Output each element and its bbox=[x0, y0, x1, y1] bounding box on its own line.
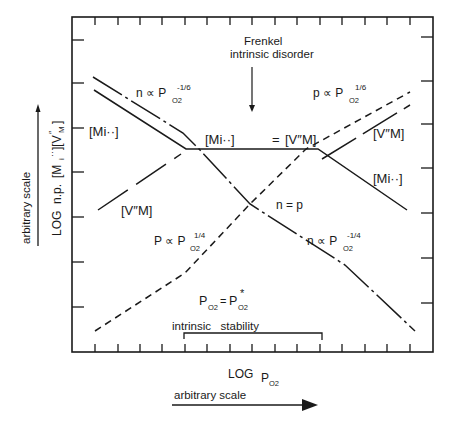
svg-text:1/6: 1/6 bbox=[355, 83, 367, 92]
svg-text:][V: ][V bbox=[50, 135, 64, 150]
svg-text:*: * bbox=[240, 287, 245, 299]
frenkel-arrow-head-icon bbox=[249, 105, 255, 112]
label-vm-left: [V″M] bbox=[121, 203, 152, 218]
x-axis-scale-label: arbitrary scale bbox=[174, 389, 246, 401]
svg-text:n ∝ P: n ∝ P bbox=[307, 234, 337, 248]
y-axis-label: LOG n.p. [M i ·· ][V ″ M ] bbox=[47, 121, 66, 236]
label-vm-right: [V″M] bbox=[373, 126, 404, 141]
x-axis-arrow-head-icon bbox=[302, 399, 318, 411]
x-axis-label: LOG P O2 bbox=[228, 367, 279, 388]
svg-text:[M: [M bbox=[50, 165, 64, 178]
svg-text:[Mi··]: [Mi··] bbox=[205, 132, 235, 147]
y-axis-scale-label: arbitrary scale bbox=[20, 172, 32, 244]
svg-text:P: P bbox=[261, 371, 269, 385]
y-axis-arrow-head-icon bbox=[36, 104, 41, 112]
svg-text:O2: O2 bbox=[269, 379, 279, 388]
svg-text:i: i bbox=[57, 158, 66, 160]
svg-text:-1/6: -1/6 bbox=[177, 83, 191, 92]
label-po2-star: P O2 = P O2 * bbox=[199, 287, 248, 312]
svg-text:[V″M]: [V″M] bbox=[285, 132, 316, 147]
top-ticks bbox=[95, 17, 410, 25]
stability-bracket bbox=[184, 333, 322, 340]
label-n-eq-p: n = p bbox=[276, 198, 303, 212]
svg-text:M: M bbox=[57, 126, 66, 133]
vacancy-left-line bbox=[98, 154, 181, 210]
svg-text:O2: O2 bbox=[343, 244, 353, 253]
svg-text:LOG: LOG bbox=[50, 211, 64, 236]
svg-text:O2: O2 bbox=[349, 96, 359, 105]
svg-text:intrinsic disorder: intrinsic disorder bbox=[230, 48, 314, 60]
svg-text:P: P bbox=[199, 294, 207, 308]
svg-text:O2: O2 bbox=[238, 303, 248, 312]
svg-text:P ∝ P: P ∝ P bbox=[154, 234, 185, 248]
left-ticks bbox=[72, 40, 84, 307]
svg-text:O2: O2 bbox=[190, 244, 200, 253]
svg-text:″: ″ bbox=[47, 130, 57, 134]
label-n-minus-sixth: n ∝ P O2 -1/6 bbox=[136, 83, 191, 105]
label-n-minus-quarter: n ∝ P O2 -1/4 bbox=[307, 231, 361, 253]
label-p-plus-quarter: P ∝ P O2 1/4 bbox=[154, 231, 206, 253]
svg-text:]: ] bbox=[50, 121, 64, 124]
label-equality: [Mi··] = [V″M] bbox=[205, 132, 316, 147]
label-mi-right: [Mi··] bbox=[373, 171, 403, 186]
svg-text:··: ·· bbox=[47, 151, 57, 157]
svg-text:n.p.: n.p. bbox=[50, 184, 64, 204]
svg-text:p ∝ P: p ∝ P bbox=[313, 86, 343, 100]
bottom-ticks bbox=[95, 344, 410, 352]
svg-text:O2: O2 bbox=[172, 96, 182, 105]
right-ticks bbox=[421, 37, 433, 303]
svg-text:O2: O2 bbox=[208, 303, 218, 312]
svg-text:=: = bbox=[272, 132, 280, 147]
svg-text:1/4: 1/4 bbox=[194, 231, 206, 240]
svg-text:Frenkel: Frenkel bbox=[244, 35, 282, 47]
svg-text:LOG: LOG bbox=[228, 367, 253, 381]
svg-text:P: P bbox=[229, 294, 237, 308]
frenkel-label: Frenkel intrinsic disorder bbox=[230, 35, 314, 60]
svg-text:-1/4: -1/4 bbox=[347, 231, 361, 240]
label-p-plus-sixth: p ∝ P O2 1/6 bbox=[313, 83, 367, 105]
label-intrinsic-stability: intrinsic stability bbox=[172, 320, 259, 332]
svg-text:n ∝ P: n ∝ P bbox=[136, 86, 166, 100]
defect-diagram: Frenkel intrinsic disorder n ∝ P O2 -1/6… bbox=[0, 0, 449, 426]
label-mi-left: [Mi··] bbox=[89, 124, 119, 139]
svg-text:=: = bbox=[220, 295, 226, 307]
